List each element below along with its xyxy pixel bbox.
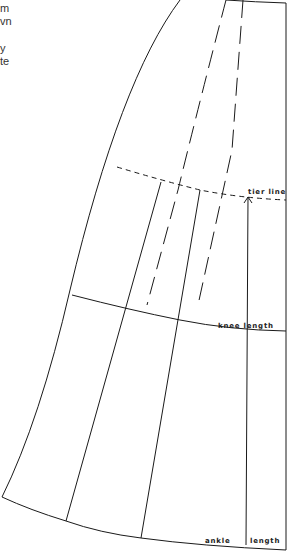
slash-line-2 xyxy=(141,190,200,538)
left-side-seam xyxy=(2,0,180,497)
slash-line-3 xyxy=(246,197,248,545)
hem-line xyxy=(2,497,286,550)
knee-length-label: knee length xyxy=(218,322,274,330)
dart-dash-1 xyxy=(147,0,226,305)
dart-dash-2 xyxy=(198,0,243,305)
waist-edge xyxy=(226,0,286,3)
slash-line-1 xyxy=(66,182,161,521)
length-label: length xyxy=(250,537,280,545)
ankle-label: ankle xyxy=(205,537,231,545)
tier-line-label: tier line xyxy=(248,188,286,196)
skirt-pattern-diagram: tier line knee length ankle length xyxy=(0,0,288,553)
